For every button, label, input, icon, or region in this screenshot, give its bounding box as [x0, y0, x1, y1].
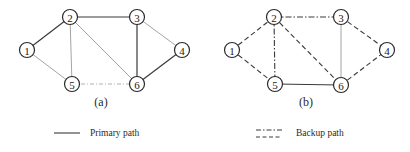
edge-a-1-2 — [27, 17, 70, 50]
node-a-2: 2 — [63, 10, 78, 25]
node-label: 6 — [338, 80, 344, 92]
network-diagram-canvas: 123456 (a) 123456 (b) Primary path Backu… — [0, 0, 410, 152]
node-a-5: 5 — [65, 77, 80, 92]
node-label: 5 — [272, 79, 278, 91]
node-label: 1 — [24, 45, 30, 57]
diagram-b: 123456 (b) — [225, 10, 395, 110]
node-label: 3 — [134, 12, 140, 24]
legend-primary: Primary path — [54, 128, 140, 138]
diagram-a-caption: (a) — [94, 95, 107, 109]
edge-a-3-4 — [137, 17, 182, 50]
edge-a-2-5 — [70, 17, 72, 84]
edge-b-1-5 — [232, 50, 275, 84]
node-b-5: 5 — [268, 77, 283, 92]
edge-b-3-4 — [341, 17, 387, 50]
node-b-1: 1 — [225, 43, 240, 58]
node-a-1: 1 — [20, 43, 35, 58]
diagram-a: 123456 (a) — [20, 10, 190, 110]
edge-a-6-4 — [137, 50, 182, 84]
node-label: 3 — [338, 12, 344, 24]
node-label: 4 — [179, 45, 185, 57]
legend: Primary path Backup path — [54, 128, 344, 138]
node-b-6: 6 — [334, 78, 349, 93]
node-a-3: 3 — [130, 10, 145, 25]
edge-b-2-6 — [274, 17, 341, 85]
edge-b-2-5 — [274, 17, 275, 84]
node-label: 2 — [67, 12, 73, 24]
node-a-4: 4 — [175, 43, 190, 58]
node-label: 1 — [229, 45, 235, 57]
edge-b-6-4 — [341, 50, 387, 85]
node-label: 6 — [134, 79, 140, 91]
diagram-b-caption: (b) — [299, 95, 313, 109]
node-label: 5 — [69, 79, 75, 91]
node-a-6: 6 — [130, 77, 145, 92]
node-b-2: 2 — [267, 10, 282, 25]
diagram-b-edges — [232, 17, 387, 85]
edge-a-2-6 — [70, 17, 137, 84]
legend-backup-label: Backup path — [296, 128, 344, 138]
diagram-a-nodes: 123456 — [20, 10, 190, 92]
legend-primary-label: Primary path — [90, 128, 140, 138]
edge-a-1-5 — [27, 50, 72, 84]
node-b-3: 3 — [334, 10, 349, 25]
diagram-b-nodes: 123456 — [225, 10, 395, 93]
node-label: 2 — [271, 12, 277, 24]
node-b-4: 4 — [380, 43, 395, 58]
legend-backup: Backup path — [256, 128, 344, 138]
node-label: 4 — [384, 45, 390, 57]
diagram-a-edges — [27, 17, 182, 84]
edge-b-5-6 — [275, 84, 341, 85]
